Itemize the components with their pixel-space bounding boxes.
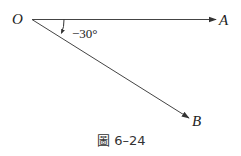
label-point-b: B [192,113,201,129]
angle-diagram: O A B −30° 圖 6–24 [0,0,241,156]
angle-arc [62,20,65,34]
angle-label: −30° [72,26,98,41]
figure-caption: 圖 6–24 [97,133,145,148]
figure-canvas: O A B −30° 圖 6–24 [0,0,241,156]
label-point-a: A [218,12,229,28]
ray-ob [32,20,189,119]
label-origin: O [12,11,23,27]
